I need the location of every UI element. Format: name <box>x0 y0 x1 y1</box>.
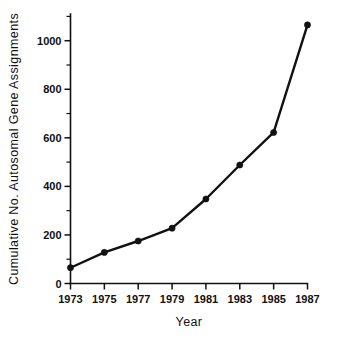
data-point-marker <box>304 22 310 28</box>
data-point-marker <box>169 225 175 231</box>
y-tick-label: 0 <box>55 278 61 290</box>
y-axis-tick-labels: 02004006008001000 <box>37 35 61 290</box>
y-tick-label: 800 <box>43 83 61 95</box>
data-point-markers <box>67 22 310 271</box>
x-tick-label: 1979 <box>160 293 184 305</box>
x-tick-label: 1987 <box>295 293 319 305</box>
y-axis-ticks <box>65 16 71 283</box>
data-series-line <box>71 25 308 268</box>
data-point-marker <box>67 265 73 271</box>
data-point-marker <box>101 249 107 255</box>
line-chart: 02004006008001000 1973197519771979198119… <box>0 0 347 337</box>
x-tick-label: 1975 <box>92 293 116 305</box>
x-tick-label: 1981 <box>194 293 218 305</box>
y-tick-label: 400 <box>43 180 61 192</box>
y-tick-label: 1000 <box>37 35 61 47</box>
data-point-marker <box>135 238 141 244</box>
x-axis-tick-labels: 19731975197719791981198319851987 <box>58 293 319 305</box>
data-point-marker <box>203 196 209 202</box>
x-tick-label: 1973 <box>58 293 82 305</box>
x-tick-label: 1977 <box>126 293 150 305</box>
y-tick-label: 200 <box>43 229 61 241</box>
x-tick-label: 1983 <box>228 293 252 305</box>
y-axis-title: Cumulative No. Autosomal Gene Assignment… <box>7 13 21 285</box>
y-tick-label: 600 <box>43 132 61 144</box>
x-axis-title: Year <box>176 315 203 329</box>
data-point-marker <box>271 129 277 135</box>
chart-container: 02004006008001000 1973197519771979198119… <box>0 0 347 337</box>
x-axis-ticks <box>71 284 308 290</box>
x-tick-label: 1985 <box>261 293 285 305</box>
data-point-marker <box>237 162 243 168</box>
